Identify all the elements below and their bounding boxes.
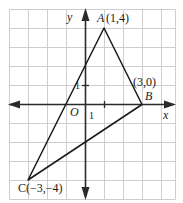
coordinate-plane-svg: y x O 1 1 A (1,4) (3,0) B C(−3,−4): [0, 0, 183, 203]
point-b-label: B: [145, 89, 153, 103]
y-axis-bottom-arrow: [82, 187, 90, 200]
coordinate-plane-figure: y x O 1 1 A (1,4) (3,0) B C(−3,−4): [0, 0, 183, 203]
point-c-label: C(−3,−4): [18, 181, 63, 195]
y-axis-label: y: [66, 10, 73, 24]
point-a-label: A: [96, 11, 105, 25]
x-unit-tick-label: 1: [89, 110, 94, 121]
origin-label: O: [70, 105, 79, 119]
point-a-coords: (1,4): [106, 11, 129, 25]
x-axis-label: x: [162, 108, 169, 122]
y-unit-tick-label: 1: [75, 80, 80, 91]
point-b-coords: (3,0): [133, 75, 156, 89]
